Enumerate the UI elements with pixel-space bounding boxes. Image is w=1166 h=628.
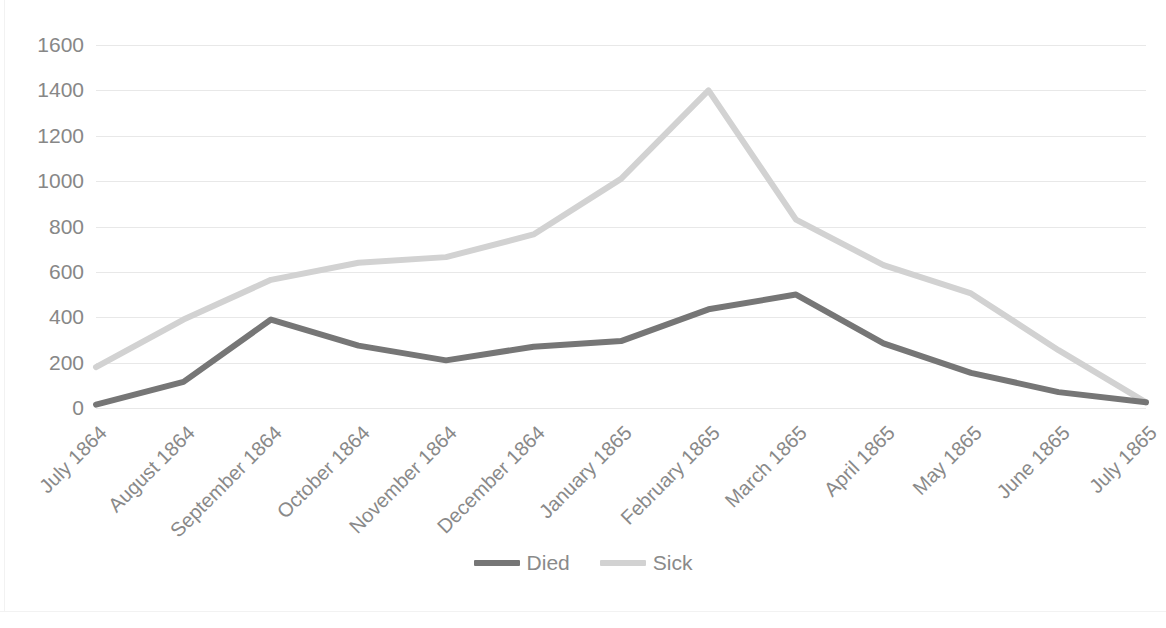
x-axis-tick-label: May 1865: [787, 422, 985, 620]
x-axis: July 1864August 1864September 1864Octobe…: [0, 0, 1166, 628]
x-axis-tick-label: June 1865: [875, 422, 1073, 620]
x-axis-tick-label: April 1865: [700, 422, 898, 620]
legend-item-died[interactable]: Died: [474, 552, 570, 573]
x-axis-tick-label: November 1864: [262, 422, 460, 620]
line-chart: 16001400120010008006004002000 July 1864A…: [0, 0, 1166, 628]
x-axis-tick-label: July 1865: [962, 422, 1160, 620]
legend-label-sick: Sick: [653, 552, 693, 573]
legend-swatch-died: [474, 560, 520, 566]
legend-label-died: Died: [527, 552, 570, 573]
x-axis-tick-label: August 1864: [0, 422, 198, 620]
legend-item-sick[interactable]: Sick: [600, 552, 693, 573]
x-axis-tick-label: December 1864: [350, 422, 548, 620]
x-axis-tick-label: September 1864: [87, 422, 285, 620]
x-axis-tick-label: January 1865: [437, 422, 635, 620]
chart-legend: DiedSick: [0, 552, 1166, 573]
x-axis-tick-label: February 1865: [525, 422, 723, 620]
legend-swatch-sick: [600, 560, 646, 566]
x-axis-tick-label: October 1864: [175, 422, 373, 620]
x-axis-tick-label: March 1865: [612, 422, 810, 620]
